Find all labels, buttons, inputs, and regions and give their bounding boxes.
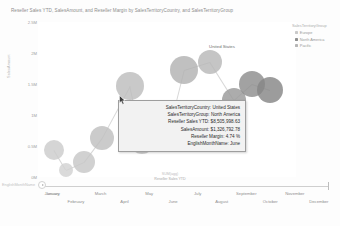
tooltip-row: SalesTerritoryGroup: North America (123, 111, 240, 118)
legend-swatch-icon (295, 38, 298, 41)
bubble-point[interactable] (198, 50, 222, 74)
legend-item-pacific[interactable]: Pacific (292, 43, 340, 48)
x-axis-tick-label: December (309, 199, 328, 204)
tooltip-key: EnglishMonthName: (187, 141, 228, 146)
x-axis-tick-label: November (285, 191, 304, 196)
tooltip-key: Reseller Sales YTD: (168, 119, 209, 124)
tooltip-row: EnglishMonthName: June (123, 140, 240, 147)
legend-title: SalesTerritoryGroup (292, 23, 340, 28)
mouse-cursor-icon (119, 95, 126, 105)
data-point-label: United States (209, 44, 235, 49)
y-axis-title: SalesAmount (7, 54, 11, 78)
y-axis-tick-label: 0.5M (28, 144, 37, 149)
tooltip-row: SalesAmount: $1,326,792.78 (123, 126, 240, 133)
y-axis-tick-label: 2M (31, 51, 37, 56)
bubble-point[interactable] (90, 126, 114, 150)
tooltip-row: Reseller Margin: 4.74 % (123, 133, 240, 140)
tooltip-value: North America (210, 112, 240, 117)
x-axis-tick-label: April (120, 199, 128, 204)
chart-title: Reseller Sales YTD, SalesAmount, and Res… (11, 8, 331, 14)
tooltip-key: SalesTerritoryGroup: (167, 112, 209, 117)
bubble-point[interactable] (44, 140, 64, 160)
tooltip-value: $8,505,998.63 (209, 119, 240, 124)
x-axis-end-tick (328, 182, 329, 190)
y-axis-tick-label: 1.5M (28, 82, 37, 87)
tooltip-row: SalesTerritoryCountry: United States (123, 104, 240, 111)
play-icon[interactable] (38, 181, 46, 189)
bubble-point[interactable] (170, 56, 198, 84)
x-axis-title: SUM(agg) Reseller Sales YTD (0, 172, 340, 182)
tooltip-key: Reseller Margin: (191, 134, 224, 139)
y-axis-tick-label: 2.5M (28, 20, 37, 25)
bubble-point[interactable] (257, 77, 283, 103)
tooltip-key: SalesAmount: (181, 127, 210, 132)
tooltip-value: June (229, 141, 240, 146)
y-axis-tick-label: 1M (31, 113, 37, 118)
x-axis-tick-label: January (45, 191, 60, 196)
legend-item-europe[interactable]: Europe (292, 30, 340, 35)
bubble-chart-report: Reseller Sales YTD, SalesAmount, and Res… (0, 0, 340, 226)
legend-swatch-icon (295, 31, 298, 34)
legend-swatch-icon (295, 44, 298, 47)
tooltip-value: United States (211, 105, 240, 110)
legend-item-label: Europe (300, 30, 313, 35)
tooltip-key: SalesTerritoryCountry: (166, 105, 211, 110)
x-axis-tick-label: October (263, 199, 278, 204)
x-axis-title-line2: Reseller Sales YTD (0, 177, 340, 182)
legend-item-label: Pacific (300, 43, 311, 48)
tooltip: SalesTerritoryCountry: United StatesSale… (118, 100, 246, 152)
y-axis: 2.5M2M1.5M1M0.5M0M (18, 22, 38, 177)
x-axis-tick-label: July (194, 191, 201, 196)
tooltip-value: $1,326,792.78 (209, 127, 240, 132)
animation-field-label: EnglishMonthName (2, 183, 35, 187)
x-axis-line (44, 186, 329, 187)
legend-item-label: North America (300, 37, 325, 42)
x-axis-tick-label: June (169, 199, 178, 204)
bubble-point[interactable] (73, 151, 95, 173)
x-axis-tick-label: May (145, 191, 153, 196)
legend: SalesTerritoryGroup EuropeNorth AmericaP… (292, 23, 340, 50)
x-axis-tick-label: September (236, 191, 256, 196)
x-axis-tick-label: March (95, 191, 107, 196)
tooltip-row: Reseller Sales YTD: $8,505,998.63 (123, 118, 240, 125)
legend-item-north-america[interactable]: North America (292, 37, 340, 42)
x-axis-tick-label: August (215, 199, 228, 204)
x-axis-tick-label: February (68, 199, 85, 204)
tooltip-value: 4.74 % (224, 134, 240, 139)
animation-control[interactable]: EnglishMonthName (2, 181, 46, 189)
